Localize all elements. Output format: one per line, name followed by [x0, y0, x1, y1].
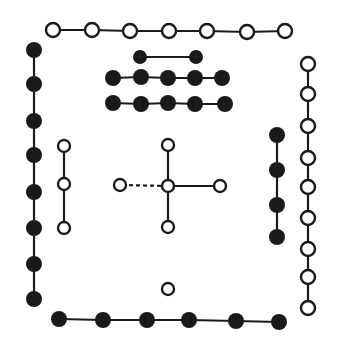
white-dot [301, 57, 315, 71]
black-dot [133, 50, 147, 64]
white-dot [123, 24, 137, 38]
black-dot [187, 96, 203, 112]
white-dot [162, 24, 176, 38]
white-dot [58, 178, 70, 190]
connector-line [120, 185, 168, 186]
inner-left-white-3-group [58, 140, 70, 234]
white-dot [214, 180, 226, 192]
inner-right-black-4-group [269, 127, 285, 245]
black-dot [133, 69, 149, 85]
black-dot [269, 162, 285, 178]
black-dot [228, 313, 244, 329]
black-dot [160, 95, 176, 111]
connector-line [59, 319, 279, 322]
center-cross-white-5-group [114, 139, 226, 233]
black-dot [214, 70, 230, 86]
black-dot [26, 220, 42, 236]
black-dot [271, 314, 287, 330]
black-dot [181, 312, 197, 328]
black-dot [269, 197, 285, 213]
white-dot [162, 283, 174, 295]
white-dot [85, 23, 99, 37]
black-dot [269, 229, 285, 245]
left-column-black-8-group [26, 42, 42, 307]
white-dot [200, 24, 214, 38]
right-column-white-9-group [301, 57, 315, 315]
black-dot [26, 113, 42, 129]
black-dot [26, 76, 42, 92]
center-row-black-5b-group [105, 95, 233, 112]
black-dot [133, 96, 149, 112]
white-dot [278, 24, 292, 38]
white-dot [301, 119, 315, 133]
white-dot [301, 301, 315, 315]
white-dot [301, 270, 315, 284]
white-dot [162, 139, 174, 151]
white-dot [46, 23, 60, 37]
black-dot [51, 311, 67, 327]
white-dot [301, 211, 315, 225]
black-dot [139, 312, 155, 328]
white-dot [301, 180, 315, 194]
center-top-black-2-group [133, 50, 203, 64]
center-row-black-5a-group [105, 69, 230, 86]
black-dot [105, 70, 121, 86]
black-dot [160, 70, 176, 86]
bottom-row-black-6-group [51, 311, 287, 330]
black-dot [269, 127, 285, 143]
black-dot [105, 95, 121, 111]
white-dot [301, 87, 315, 101]
black-dot [26, 256, 42, 272]
black-dot [26, 147, 42, 163]
hetu-dot-diagram [0, 0, 341, 355]
white-dot [301, 242, 315, 256]
white-dot [114, 179, 126, 191]
black-dot [187, 70, 203, 86]
top-row-white-7-group [46, 23, 292, 39]
white-dot [301, 151, 315, 165]
black-dot [26, 42, 42, 58]
white-dot [240, 25, 254, 39]
black-dot [217, 96, 233, 112]
black-dot [95, 312, 111, 328]
black-dot [26, 184, 42, 200]
bottom-center-white-1-group [162, 283, 174, 295]
black-dot [189, 50, 203, 64]
white-dot [162, 221, 174, 233]
white-dot [58, 140, 70, 152]
black-dot [26, 291, 42, 307]
white-dot [58, 222, 70, 234]
white-dot [162, 180, 174, 192]
